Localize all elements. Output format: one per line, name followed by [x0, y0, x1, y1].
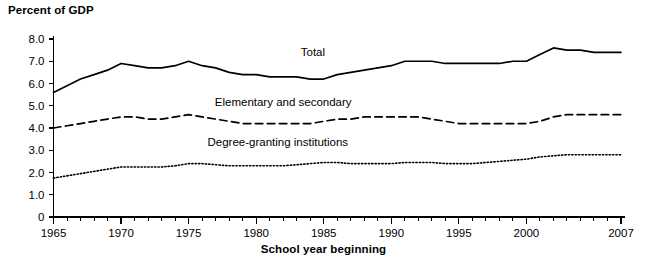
x-tick-label: 1970 — [108, 227, 134, 239]
y-axis-ticks: 01.02.03.04.05.06.07.08.0 — [29, 33, 54, 223]
x-tick-label: 1985 — [311, 227, 337, 239]
x-axis-ticks: 196519701975198019851990199520002007 — [41, 217, 634, 239]
data-series-group — [54, 48, 622, 178]
series-line-dashed — [54, 115, 622, 128]
y-tick-label: 3.0 — [29, 144, 45, 156]
x-tick-label: 1965 — [41, 227, 67, 239]
y-tick-label: 8.0 — [29, 33, 45, 45]
x-tick-label: 1975 — [176, 227, 202, 239]
y-tick-label: 7.0 — [29, 55, 45, 67]
y-tick-label: 2.0 — [29, 167, 45, 179]
x-tick-label: 1995 — [446, 227, 472, 239]
x-tick-label: 2000 — [514, 227, 540, 239]
series-label: Total — [301, 46, 325, 58]
series-label: Degree-granting institutions — [207, 136, 348, 148]
y-tick-label: 5.0 — [29, 100, 45, 112]
y-tick-label: 4.0 — [29, 122, 45, 134]
series-inline-labels: TotalElementary and secondaryDegree-gran… — [207, 46, 351, 148]
y-tick-label: 1.0 — [29, 189, 45, 201]
x-tick-label: 1990 — [379, 227, 405, 239]
x-axis-title: School year beginning — [0, 243, 647, 255]
x-tick-label: 1980 — [243, 227, 269, 239]
y-tick-label: 0 — [38, 211, 44, 223]
series-line-dotted — [54, 155, 622, 178]
series-line-solid — [54, 48, 622, 93]
line-chart-plot: 01.02.03.04.05.06.07.08.0 19651970197519… — [0, 0, 647, 271]
chart-figure: Percent of GDP 01.02.03.04.05.06.07.08.0… — [0, 0, 647, 271]
series-label: Elementary and secondary — [215, 96, 352, 108]
x-tick-label: 2007 — [608, 227, 634, 239]
y-tick-label: 6.0 — [29, 78, 45, 90]
